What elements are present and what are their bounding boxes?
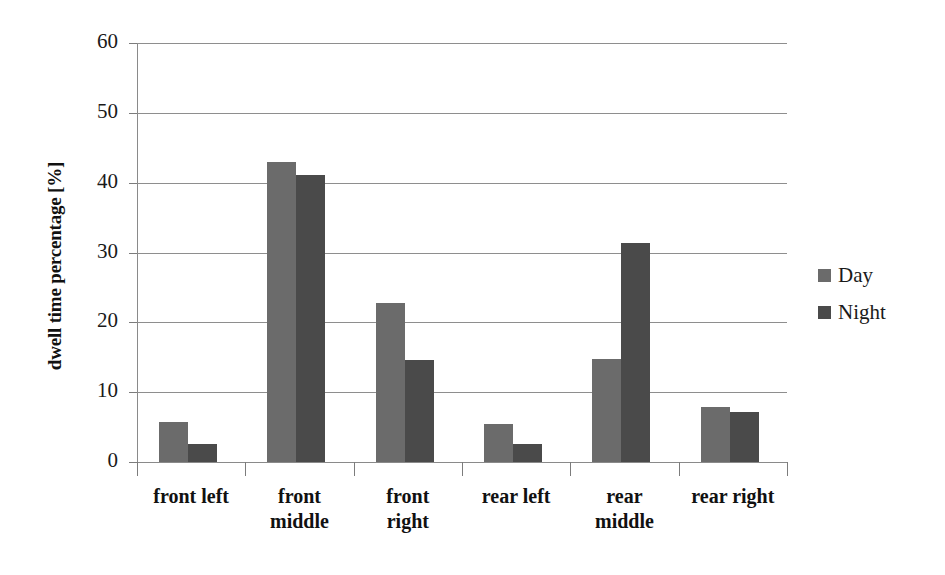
- x-axis-tick-mark: [679, 462, 680, 476]
- x-axis-tick-mark: [354, 462, 355, 476]
- bar-group: [462, 43, 570, 462]
- x-axis-tick-mark: [245, 462, 246, 476]
- y-axis-tick-label: 0: [48, 448, 118, 473]
- x-axis-category-label: frontright: [354, 484, 462, 534]
- bar-night: [188, 444, 217, 462]
- category-label-line: front: [354, 484, 462, 509]
- bar-chart: dwell time percentage [%] 0102030405060 …: [0, 0, 945, 575]
- x-axis-category-label: rearmiddle: [570, 484, 678, 534]
- category-label-line: front: [245, 484, 353, 509]
- legend: DayNight: [818, 257, 938, 331]
- category-label-line: rear: [570, 484, 678, 509]
- legend-label: Night: [838, 302, 886, 323]
- y-axis-tick-label: 50: [48, 99, 118, 124]
- x-axis-category-label: rear right: [679, 484, 787, 509]
- plot-area: [137, 43, 787, 462]
- category-label-line: middle: [570, 509, 678, 534]
- category-label-line: rear left: [462, 484, 570, 509]
- bar-group: [137, 43, 245, 462]
- bar-day: [267, 162, 296, 462]
- bar-night: [405, 360, 434, 462]
- x-axis-category-label: rear left: [462, 484, 570, 509]
- bar-group: [354, 43, 462, 462]
- bar-group: [679, 43, 787, 462]
- x-axis-tick-mark: [462, 462, 463, 476]
- y-axis-tick-label: 60: [48, 29, 118, 54]
- category-label-line: front left: [137, 484, 245, 509]
- x-axis-category-label: front left: [137, 484, 245, 509]
- bar-night: [296, 175, 325, 462]
- bar-night: [730, 412, 759, 462]
- bar-day: [701, 407, 730, 462]
- bar-night: [621, 243, 650, 462]
- bar-day: [592, 359, 621, 462]
- bar-day: [484, 424, 513, 462]
- bar-group: [245, 43, 353, 462]
- legend-swatch-icon: [818, 306, 831, 319]
- category-label-line: middle: [245, 509, 353, 534]
- bar-day: [159, 422, 188, 462]
- y-axis-tick-label: 30: [48, 239, 118, 264]
- legend-item: Night: [818, 294, 938, 331]
- category-label-line: right: [354, 509, 462, 534]
- y-axis-tick-label: 10: [48, 378, 118, 403]
- bar-group: [570, 43, 678, 462]
- legend-label: Day: [838, 265, 873, 286]
- x-axis-tick-mark: [570, 462, 571, 476]
- category-label-line: rear right: [679, 484, 787, 509]
- legend-item: Day: [818, 257, 938, 294]
- y-axis-tick-label: 40: [48, 169, 118, 194]
- y-axis-tick-label: 20: [48, 308, 118, 333]
- legend-swatch-icon: [818, 269, 831, 282]
- bar-night: [513, 444, 542, 462]
- bar-day: [376, 303, 405, 462]
- x-axis-category-label: frontmiddle: [245, 484, 353, 534]
- x-axis-tick-mark: [787, 462, 788, 476]
- x-axis-tick-mark: [137, 462, 138, 476]
